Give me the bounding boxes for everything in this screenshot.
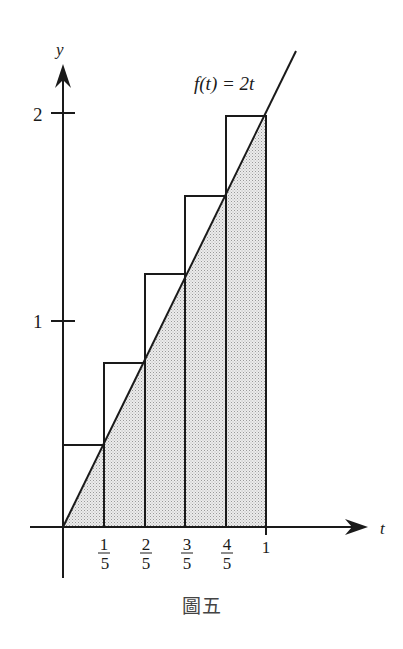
svg-text:5: 5	[101, 554, 110, 573]
svg-text:3: 3	[183, 535, 192, 554]
svg-text:2: 2	[142, 535, 151, 554]
x-axis-label: t	[380, 519, 386, 538]
x-tick-label-1-5: 1 5	[98, 535, 110, 573]
figure-caption: 圖五	[0, 591, 403, 618]
svg-text:5: 5	[183, 554, 192, 573]
y-tick-label-2: 2	[33, 104, 43, 125]
svg-text:1: 1	[100, 535, 109, 554]
x-tick-label-3-5: 3 5	[181, 535, 193, 573]
x-tick-label-4-5: 4 5	[221, 535, 233, 573]
y-axis-label: y	[54, 40, 64, 59]
svg-text:5: 5	[223, 554, 232, 573]
svg-text:5: 5	[142, 554, 151, 573]
riemann-sum-diagram: y t 2 1 f(t) = 2t 1 5 2 5 3 5 4 5 1	[0, 0, 403, 649]
x-tick-label-2-5: 2 5	[140, 535, 152, 573]
y-tick-label-1: 1	[33, 311, 43, 332]
svg-text:4: 4	[223, 535, 232, 554]
function-label: f(t) = 2t	[194, 73, 255, 95]
x-tick-label-1: 1	[262, 538, 271, 557]
